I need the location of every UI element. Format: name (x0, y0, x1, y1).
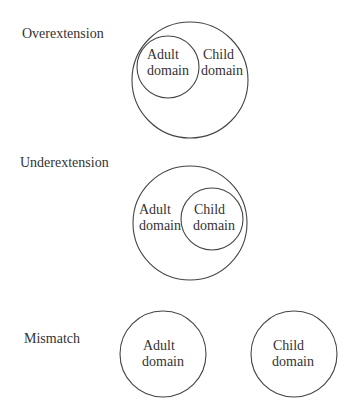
overextension-diagram: Overextension Adult domain Child domain (22, 22, 248, 138)
overextension-title: Overextension (22, 26, 104, 41)
mismatch-diagram: Mismatch Adult domain Child domain (24, 311, 337, 397)
underextension-diagram: Underextension Adult domain Child domain (20, 155, 247, 280)
adult-domain-label: Adult domain (142, 338, 184, 369)
adult-domain-label: Adult domain (147, 47, 189, 78)
underextension-title: Underextension (20, 155, 109, 170)
child-domain-label: Child domain (193, 202, 235, 233)
mismatch-title: Mismatch (24, 331, 80, 346)
child-domain-label: Child domain (272, 338, 314, 369)
domain-diagram-canvas: Overextension Adult domain Child domain … (0, 0, 353, 415)
child-domain-label: Child domain (201, 47, 243, 78)
adult-domain-label: Adult domain (139, 202, 181, 233)
child-domain-circle (132, 22, 248, 138)
